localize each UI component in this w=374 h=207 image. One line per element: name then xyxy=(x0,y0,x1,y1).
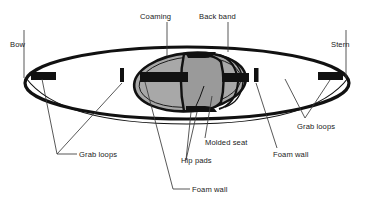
label-stern: Stern xyxy=(331,40,350,49)
label-bow: Bow xyxy=(10,40,25,49)
grab-loop-stern-bar xyxy=(318,72,343,80)
kayak-diagram xyxy=(0,0,374,207)
figure-canvas: Bow Stern Coaming Back band Grab loops G… xyxy=(0,0,374,207)
label-molded-seat: Molded seat xyxy=(205,138,247,147)
label-foam-wall-bottom: Foam wall xyxy=(192,185,228,194)
back-band-bar xyxy=(222,73,249,82)
thigh-brace-bar xyxy=(140,72,188,82)
foam-wall-front-bar xyxy=(120,68,124,82)
label-hip-pads: Hip pads xyxy=(181,156,212,165)
label-grab-loops-right: Grab loops xyxy=(297,122,335,131)
label-coaming: Coaming xyxy=(140,12,171,21)
label-grab-loops-left: Grab loops xyxy=(79,150,117,159)
label-back-band: Back band xyxy=(199,12,236,21)
grab-loop-bow-bar xyxy=(31,72,56,80)
foam-wall-rear-bar xyxy=(254,68,259,82)
label-foam-wall-right: Foam wall xyxy=(273,150,309,159)
molded-seat-shape xyxy=(181,54,224,111)
